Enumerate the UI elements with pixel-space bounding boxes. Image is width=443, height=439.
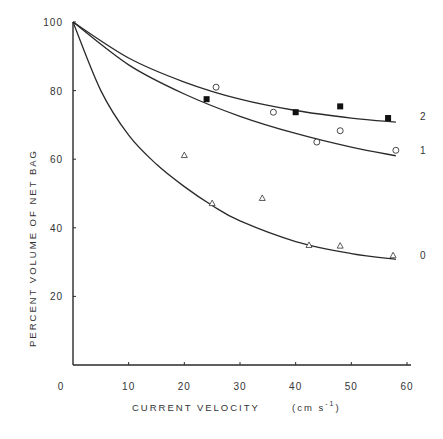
series-label-1: 1 — [420, 145, 426, 156]
tick-labels: 204060801000102030405060 — [43, 17, 413, 392]
circle-marker — [213, 84, 219, 90]
square-marker — [204, 96, 210, 102]
x-tick-label: 50 — [345, 381, 358, 392]
y-tick-label: 40 — [50, 223, 63, 234]
circle-marker — [270, 109, 276, 115]
x-unit-suffix: ) — [335, 402, 340, 413]
x-tick-label: 20 — [178, 381, 191, 392]
square-marker — [337, 103, 343, 109]
triangle-marker — [259, 195, 265, 201]
y-tick-label: 60 — [50, 154, 63, 165]
x-axis-label: CURRENT VELOCITY — [132, 402, 260, 413]
chart: 204060801000102030405060 PERCENT VOLUME … — [0, 0, 443, 439]
triangle-marker — [390, 252, 396, 257]
x-unit-prefix: (cm s — [292, 402, 325, 413]
square-marker — [385, 115, 391, 121]
x-tick-label: 10 — [122, 381, 135, 392]
axes — [73, 22, 411, 365]
y-axis-label: PERCENT VOLUME OF NET BAG — [27, 149, 38, 347]
x-tick-label: 60 — [400, 381, 413, 392]
x-tick-label: 40 — [289, 381, 302, 392]
circle-marker — [314, 139, 320, 145]
triangle-marker — [209, 200, 215, 206]
fit-curve-1 — [73, 22, 396, 156]
fit-curve-0 — [73, 22, 396, 259]
triangle-marker — [337, 243, 343, 249]
square-marker — [293, 109, 299, 115]
x-unit-exponent: -1 — [325, 400, 335, 407]
series-label-0: 0 — [420, 250, 426, 261]
y-tick-label: 100 — [43, 17, 63, 28]
fit-curves — [73, 22, 396, 259]
x-tick-label: 30 — [233, 381, 246, 392]
circle-marker — [393, 147, 399, 153]
x-tick-label: 0 — [58, 381, 65, 392]
triangle-marker — [181, 152, 187, 158]
x-axis-unit: (cm s-1) — [292, 400, 341, 413]
y-tick-label: 80 — [50, 86, 63, 97]
circle-marker — [337, 128, 343, 134]
data-points — [181, 84, 399, 258]
series-label-2: 2 — [420, 111, 426, 122]
y-tick-label: 20 — [50, 291, 63, 302]
fit-curve-2 — [73, 22, 396, 122]
